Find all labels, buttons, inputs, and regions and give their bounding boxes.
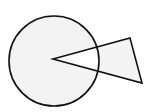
- geometry-diagram: [0, 0, 151, 112]
- shaded-region: [9, 16, 142, 106]
